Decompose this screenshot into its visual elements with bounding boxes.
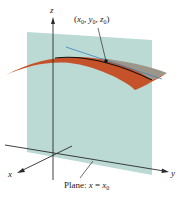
y-axis-label: y <box>170 168 175 178</box>
z-axis-arrow-icon <box>51 17 55 24</box>
x-axis-arrow-icon <box>17 168 25 173</box>
plane-x-equals-x0 <box>27 32 152 175</box>
x-axis-label: x <box>7 169 12 179</box>
z-axis-label: z <box>49 5 54 15</box>
plane-leader-line <box>80 161 93 178</box>
plane-label: Plane: x = x0 <box>64 180 109 191</box>
y-axis-arrow-icon <box>162 169 170 174</box>
point-label: (x0, y0, z0) <box>74 14 110 25</box>
surface-plane-diagram: z y x (x0, y0, z0) Plane: x = x0 <box>0 0 182 197</box>
